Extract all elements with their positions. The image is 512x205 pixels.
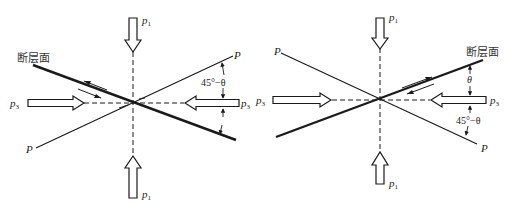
angle-label: 45°−θ bbox=[456, 115, 481, 126]
plane-p-bottom-label: P bbox=[480, 142, 488, 154]
plane-p-top-label: P bbox=[273, 45, 281, 57]
p3-left-arrow-icon bbox=[28, 96, 84, 110]
p1-top-arrow-icon bbox=[125, 18, 141, 52]
p3-left-label: p3 bbox=[9, 97, 20, 111]
p1-bottom-label: p1 bbox=[388, 177, 399, 191]
p1-top-label: p1 bbox=[388, 11, 399, 25]
plane-p-top-label: P bbox=[233, 49, 241, 61]
p1-bottom-arrow-icon bbox=[125, 156, 141, 198]
angle-indicator bbox=[220, 63, 224, 134]
p3-left-arrow-icon bbox=[273, 93, 331, 107]
p1-top-label: p1 bbox=[141, 14, 152, 28]
p1-bottom-label: p1 bbox=[141, 188, 152, 202]
fault-plane-label: 断层面 bbox=[466, 45, 499, 59]
angle-label: 45°−θ bbox=[201, 77, 226, 88]
left-diagram: 断层面 p1 p1 p3 p3 P P 45°−θ bbox=[9, 14, 251, 202]
right-diagram: 断层面 p1 p1 p3 p3 P P θ 45°−θ bbox=[255, 11, 500, 191]
theta-label: θ bbox=[467, 74, 472, 85]
p1-bottom-arrow-icon bbox=[372, 152, 388, 184]
p3-right-arrow-icon bbox=[431, 93, 486, 107]
p3-left-label: p3 bbox=[255, 94, 266, 108]
p3-right-arrow-icon bbox=[185, 96, 239, 110]
fault-plane-label: 断层面 bbox=[17, 51, 50, 65]
p1-top-arrow-icon bbox=[372, 18, 388, 49]
fault-stress-diagram: 断层面 p1 p1 p3 p3 P P 45°−θ bbox=[0, 0, 512, 205]
p3-right-label: p3 bbox=[240, 97, 251, 111]
plane-p-bottom-label: P bbox=[25, 143, 33, 155]
p3-right-label: p3 bbox=[489, 94, 500, 108]
